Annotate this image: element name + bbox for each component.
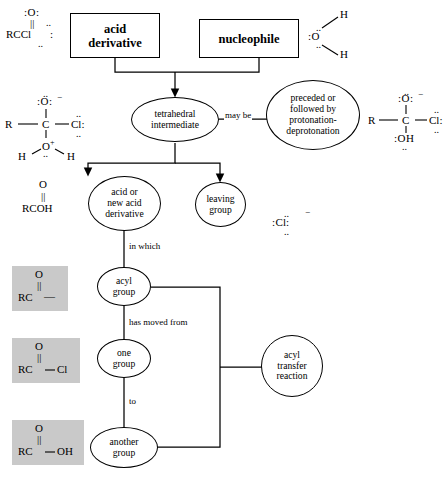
tetrahedral-intermediate-structure-right: .. :O: − R C .. Cl: .. :OH .. <box>368 88 447 150</box>
ellipse-one-group-label: one group <box>113 348 135 370</box>
acid-chloride-chlorine-lone-pair-right: : <box>50 28 54 40</box>
acid-chloride-body: RCCl <box>6 28 31 40</box>
chloride-lone-pair-bottom: .. <box>284 226 289 237</box>
acyl-generic-double-bond: || <box>37 279 41 291</box>
ellipse-acyl-group[interactable]: acyl group <box>97 267 151 306</box>
water-structure: H .. :O .. H <box>300 8 355 64</box>
acyl-group-structure: O || RC — <box>12 266 68 311</box>
rcooh-double-bond: || <box>41 190 45 202</box>
acyl-generic-open-bond: — <box>44 290 55 302</box>
ellipse-tetrahedral-intermediate[interactable]: tetrahedral intermediate <box>131 97 219 142</box>
connector-lines <box>0 0 447 477</box>
ellipse-acid-or-new-acid-derivative-label: acid or new acid derivative <box>105 187 143 220</box>
acid-chloride-lone-pair-upper: .. <box>46 17 51 28</box>
ellipse-acyl-transfer-reaction[interactable]: acyl transfer reaction <box>261 335 323 397</box>
box-nucleophile-label: nucleophile <box>218 32 279 46</box>
box-nucleophile[interactable]: nucleophile <box>199 19 299 58</box>
diagram-canvas: acid derivative nucleophile tetrahedral … <box>0 0 447 477</box>
acid-chloride-structure: :O: || .. RCCl : .. <box>6 6 68 52</box>
ellipse-tetrahedral-intermediate-label: tetrahedral intermediate <box>151 109 199 131</box>
rcooh-body: RCOH <box>22 202 53 214</box>
acyl-generic-body: RC <box>18 291 33 303</box>
ellipse-protonation-deprotonation[interactable]: preceded or followed by protonation- dep… <box>266 80 360 150</box>
edge-label-to: to <box>128 396 137 406</box>
left-ti-bonds <box>5 88 117 160</box>
ellipse-one-group[interactable]: one group <box>97 339 151 378</box>
chloride-ion-structure: .. − :Cl: .. <box>272 208 327 240</box>
ellipse-leaving-group-label: leaving group <box>206 194 234 216</box>
acyl-hydroxy-bond <box>12 420 84 465</box>
ellipse-protonation-deprotonation-label: preceded or followed by protonation- dep… <box>286 93 339 137</box>
ellipse-another-group-label: another group <box>110 437 139 459</box>
box-acid-derivative-label: acid derivative <box>88 22 141 50</box>
ellipse-leaving-group[interactable]: leaving group <box>195 182 246 227</box>
acyl-chloride-bond <box>12 338 80 383</box>
box-acid-derivative[interactable]: acid derivative <box>70 13 160 58</box>
tetrahedral-intermediate-structure-left: .. :O: − R C .. Cl: .. O+ .. H H <box>5 88 117 160</box>
edge-label-has-moved-from: has moved from <box>128 317 189 327</box>
right-ti-bonds <box>368 88 447 150</box>
acid-chloride-lone-pair-lower: .. <box>38 38 43 49</box>
edge-label-may-be: may be <box>224 110 252 120</box>
ellipse-another-group[interactable]: another group <box>90 427 158 468</box>
ellipse-acid-or-new-acid-derivative[interactable]: acid or new acid derivative <box>88 176 161 231</box>
carboxylic-acid-boxed-structure: O || RC OH <box>12 420 84 465</box>
chloride-negative-charge: − <box>305 207 310 217</box>
carboxylic-acid-structure: O || RCOH <box>22 178 82 220</box>
ellipse-acyl-group-label: acyl group <box>113 276 135 298</box>
ellipse-acyl-transfer-reaction-label: acyl transfer reaction <box>277 350 308 383</box>
rcooh-oxygen: O <box>39 178 47 190</box>
edge-label-in-which: in which <box>128 241 161 251</box>
acyl-chloride-structure: O || RC Cl <box>12 338 80 383</box>
water-bonds <box>300 8 355 64</box>
